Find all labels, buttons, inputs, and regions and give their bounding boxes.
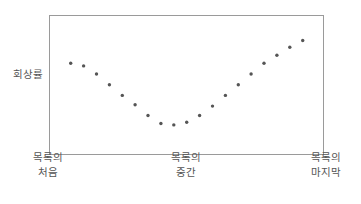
- data-points: [69, 39, 304, 127]
- data-point: [185, 121, 188, 124]
- data-point: [69, 62, 72, 65]
- data-point: [146, 114, 149, 117]
- data-point: [211, 104, 214, 107]
- x-tick-start-line2: 처음: [33, 165, 63, 180]
- data-point: [82, 64, 85, 67]
- x-tick-end-line2: 마지막: [311, 165, 341, 180]
- x-tick-label-end: 목록의 마지막: [311, 150, 341, 180]
- data-point: [249, 72, 252, 75]
- data-point: [237, 83, 240, 86]
- x-tick-end-line1: 목록의: [311, 150, 341, 165]
- plot-frame: [50, 16, 324, 155]
- y-axis-label: 회상률: [13, 67, 43, 82]
- data-point: [121, 94, 124, 97]
- x-tick-label-middle: 목록의 중간: [171, 150, 201, 180]
- x-tick-label-start: 목록의 처음: [33, 150, 63, 180]
- x-tick-start-line1: 목록의: [33, 150, 63, 165]
- x-tick-mid-line2: 중간: [171, 165, 201, 180]
- data-point: [95, 72, 98, 75]
- data-point: [288, 46, 291, 49]
- data-point: [172, 123, 175, 126]
- data-point: [262, 62, 265, 65]
- data-point: [133, 103, 136, 106]
- data-point: [275, 54, 278, 57]
- data-point: [159, 122, 162, 125]
- data-point: [108, 83, 111, 86]
- data-point: [301, 39, 304, 42]
- x-tick-mid-line1: 목록의: [171, 150, 201, 165]
- data-point: [198, 114, 201, 117]
- data-point: [224, 94, 227, 97]
